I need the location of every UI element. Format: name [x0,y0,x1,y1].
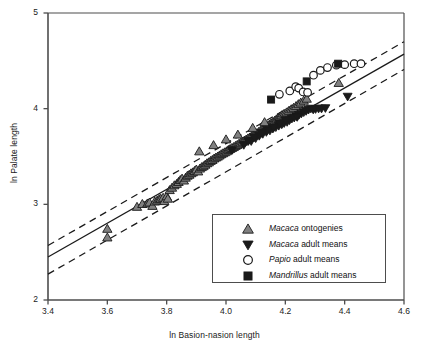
legend-label-rest: adult means [299,239,348,249]
legend-label: Macaca ontogenies [269,223,343,233]
data-point [335,60,342,67]
legend-marker [244,271,252,279]
data-point [304,89,312,97]
legend-genus: Macaca [269,239,299,249]
legend-entry: Papio adult means [213,252,387,268]
legend-marker [243,241,253,250]
legend-label-rest: adult means [291,254,340,264]
legend-label-rest: adult means [308,270,357,280]
x-tick-label: 3.6 [92,306,122,316]
x-tick-label: 4.2 [270,306,300,316]
data-point [303,78,310,85]
y-tick-label: 4 [18,103,38,113]
legend-genus: Papio [269,254,291,264]
scatter-plot-figure [0,0,429,350]
x-tick-label: 4.0 [211,306,241,316]
legend-marker [243,224,254,233]
legend-label-rest: ontogenies [299,223,343,233]
legend-marker [244,256,253,265]
x-tick-label: 4.4 [330,306,360,316]
x-tick-label: 3.4 [33,306,63,316]
figure-background [0,0,429,350]
data-point [268,96,275,103]
data-point [317,67,325,75]
legend-entry: Mandrillus adult means [213,268,387,284]
data-point [276,91,284,99]
legend-marker-triangle-down-icon [240,237,256,253]
legend-marker-square-icon [240,268,256,284]
legend-genus: Macaca [269,223,299,233]
legend-label: Papio adult means [269,254,339,264]
data-point [310,71,318,79]
x-tick-label: 3.8 [152,306,182,316]
legend-entry: Macaca adult means [213,237,387,253]
legend-marker-circle-open-icon [240,252,256,268]
legend-label: Mandrillus adult means [269,270,356,280]
chart-legend: Macaca ontogeniesMacaca adult meansPapio… [212,214,386,283]
legend-marker-triangle-up-icon [240,221,256,237]
legend-genus: Mandrillus [269,270,308,280]
legend-entry: Macaca ontogenies [213,221,387,237]
data-point [324,64,332,72]
y-tick-label: 3 [18,198,38,208]
data-point [357,60,365,68]
x-axis-title: ln Basion-nasion length [0,330,429,340]
y-tick-label: 2 [18,294,38,304]
legend-label: Macaca adult means [269,239,347,249]
x-tick-label: 4.6 [389,306,419,316]
y-tick-label: 5 [18,7,38,17]
